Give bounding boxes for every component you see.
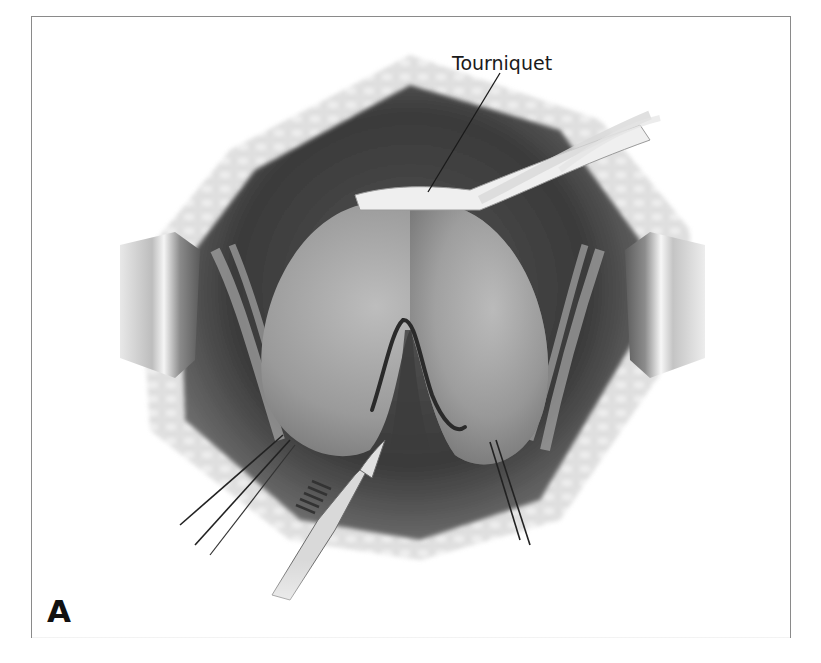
retractor-left xyxy=(120,232,200,378)
tourniquet-label: Tourniquet xyxy=(452,52,552,74)
surgical-illustration xyxy=(0,0,821,663)
retractor-right xyxy=(625,232,705,378)
panel-label: A xyxy=(47,593,71,629)
